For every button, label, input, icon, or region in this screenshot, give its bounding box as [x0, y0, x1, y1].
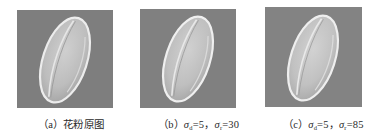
- caption-a-text: 花粉原图: [63, 119, 104, 130]
- caption-b: （b）σd=5，σr=30: [158, 116, 239, 131]
- caption-b-label: （b）: [158, 119, 184, 130]
- caption-c: （c）σd=5，σr=85: [283, 116, 364, 131]
- image-panel-b: [140, 9, 236, 108]
- pollen-grain-image-original: [17, 10, 113, 108]
- caption-c-label: （c）: [283, 119, 308, 130]
- caption-a: （a）花粉原图: [38, 116, 104, 131]
- sigma-r-value: =85: [347, 119, 364, 130]
- pollen-grain-image-filtered-85: [265, 7, 362, 107]
- pollen-grain-image-filtered-30: [140, 9, 236, 108]
- caption-a-label: （a）: [38, 119, 63, 130]
- sigma-d-value: =5，: [317, 119, 339, 130]
- image-panel-c: [265, 7, 362, 107]
- image-panel-a: [17, 10, 113, 108]
- sigma-d-value: =5，: [193, 119, 215, 130]
- sigma-r-value: =30: [222, 119, 239, 130]
